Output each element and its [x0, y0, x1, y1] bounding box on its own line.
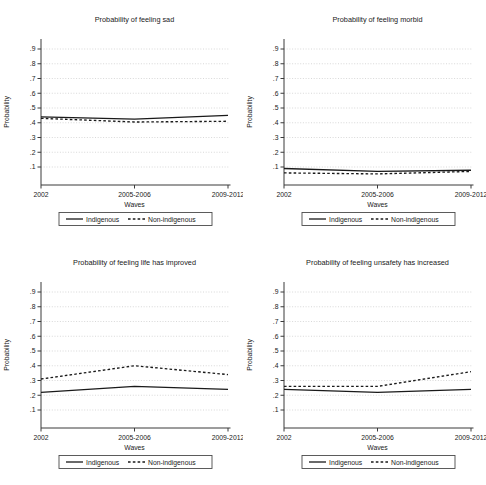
y-tick-label: .6 — [273, 90, 279, 97]
x-axis-label: Waves — [124, 201, 145, 208]
x-tick-label: 2002 — [276, 434, 291, 441]
y-tick-label: .6 — [30, 333, 36, 340]
y-tick-label: .7 — [273, 75, 279, 82]
series-line-indigenous — [284, 168, 471, 171]
x-tick-label: 2005-2006 — [118, 434, 151, 441]
x-tick-label: 2005-2006 — [361, 434, 394, 441]
y-tick-label: .4 — [30, 119, 36, 126]
y-tick-label: .6 — [273, 333, 279, 340]
legend-label-indigenous: Indigenous — [329, 459, 363, 467]
y-tick-label: .2 — [30, 392, 36, 399]
y-tick-label: .5 — [273, 104, 279, 111]
y-tick-label: .2 — [273, 392, 279, 399]
legend-label-indigenous: Indigenous — [86, 459, 120, 467]
x-tick-label: 2002 — [33, 434, 48, 441]
y-axis-label: Probability — [246, 339, 254, 371]
y-axis-label: Probability — [3, 339, 11, 371]
legend: Indigenous Non-indigenous — [302, 213, 455, 226]
y-tick-label: .3 — [30, 134, 36, 141]
chart-title: Probability of feeling unsafety has incr… — [306, 258, 449, 267]
y-axis-label: Probability — [3, 96, 11, 128]
plot-area: .1.2.3.4.5.6.7.8.920022005-20062009-2012 — [30, 282, 243, 441]
plot-area: .1.2.3.4.5.6.7.8.920022005-20062009-2012 — [273, 282, 486, 441]
chart-feeling-sad: Probability of feeling sad Probability .… — [0, 0, 243, 243]
legend: Indigenous Non-indigenous — [59, 456, 212, 469]
legend-label-non-indigenous: Non-indigenous — [391, 459, 439, 467]
chart-title: Probability of feeling morbid — [332, 15, 422, 24]
series-line-indigenous — [41, 115, 228, 119]
y-tick-label: .8 — [273, 60, 279, 67]
y-tick-label: .5 — [273, 347, 279, 354]
x-axis-label: Waves — [124, 444, 145, 451]
x-tick-label: 2002 — [276, 191, 291, 198]
x-tick-label: 2005-2006 — [118, 191, 151, 198]
y-tick-label: .6 — [30, 90, 36, 97]
y-tick-label: .5 — [30, 347, 36, 354]
series-line-indigenous — [284, 389, 471, 392]
chart-svg: Probability of feeling life has improved… — [0, 243, 243, 485]
x-tick-label: 2009-2012 — [455, 191, 486, 198]
y-axis-label: Probability — [246, 96, 254, 128]
y-tick-label: .1 — [30, 163, 36, 170]
y-tick-label: .3 — [30, 377, 36, 384]
chart-life-improved: Probability of feeling life has improved… — [0, 243, 243, 485]
y-tick-label: .9 — [30, 288, 36, 295]
y-tick-label: .9 — [30, 45, 36, 52]
y-tick-label: .4 — [273, 362, 279, 369]
legend-label-non-indigenous: Non-indigenous — [148, 216, 196, 224]
plot-area: .1.2.3.4.5.6.7.8.920022005-20062009-2012 — [273, 39, 486, 198]
y-tick-label: .4 — [273, 119, 279, 126]
chart-grid: Probability of feeling sad Probability .… — [0, 0, 486, 485]
y-tick-label: .8 — [30, 303, 36, 310]
x-axis-label: Waves — [367, 444, 388, 451]
y-tick-label: .1 — [273, 163, 279, 170]
x-tick-label: 2005-2006 — [361, 191, 394, 198]
x-tick-label: 2002 — [33, 191, 48, 198]
y-tick-label: .8 — [30, 60, 36, 67]
chart-title: Probability of feeling life has improved — [73, 258, 196, 267]
y-tick-label: .3 — [273, 377, 279, 384]
x-tick-label: 2009-2012 — [212, 191, 243, 198]
chart-feeling-morbid: Probability of feeling morbid Probabilit… — [243, 0, 486, 243]
x-tick-label: 2009-2012 — [455, 434, 486, 441]
chart-unsafety-increased: Probability of feeling unsafety has incr… — [243, 243, 486, 485]
y-tick-label: .8 — [273, 303, 279, 310]
y-tick-label: .7 — [30, 318, 36, 325]
legend: Indigenous Non-indigenous — [59, 213, 212, 226]
y-tick-label: .5 — [30, 104, 36, 111]
legend-label-non-indigenous: Non-indigenous — [148, 459, 196, 467]
y-tick-label: .9 — [273, 288, 279, 295]
legend-label-indigenous: Indigenous — [86, 216, 120, 224]
series-line-non-indigenous — [284, 372, 471, 387]
x-axis-label: Waves — [367, 201, 388, 208]
legend: Indigenous Non-indigenous — [302, 456, 455, 469]
x-tick-label: 2009-2012 — [212, 434, 243, 441]
y-tick-label: .2 — [30, 149, 36, 156]
chart-svg: Probability of feeling unsafety has incr… — [243, 243, 486, 485]
legend-label-indigenous: Indigenous — [329, 216, 363, 224]
y-tick-label: .1 — [273, 406, 279, 413]
y-tick-label: .7 — [30, 75, 36, 82]
chart-svg: Probability of feeling morbid Probabilit… — [243, 0, 486, 243]
chart-svg: Probability of feeling sad Probability .… — [0, 0, 243, 243]
chart-title: Probability of feeling sad — [95, 15, 175, 24]
series-line-indigenous — [41, 386, 228, 392]
y-tick-label: .4 — [30, 362, 36, 369]
legend-label-non-indigenous: Non-indigenous — [391, 216, 439, 224]
y-tick-label: .1 — [30, 406, 36, 413]
y-tick-label: .3 — [273, 134, 279, 141]
series-line-non-indigenous — [41, 366, 228, 379]
y-tick-label: .9 — [273, 45, 279, 52]
y-tick-label: .2 — [273, 149, 279, 156]
plot-area: .1.2.3.4.5.6.7.8.920022005-20062009-2012 — [30, 39, 243, 198]
y-tick-label: .7 — [273, 318, 279, 325]
